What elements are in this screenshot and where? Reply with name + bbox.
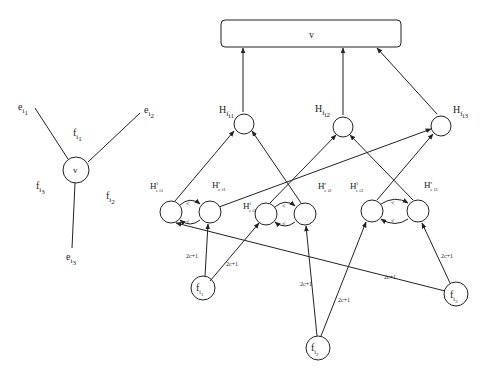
- pair1-arc-top-label: <: [186, 201, 190, 207]
- label-h-r-e-i3: Hre i3: [424, 180, 438, 192]
- arrow-fi1-to-he2l: [210, 223, 259, 281]
- pair3-arc-top-label: <: [391, 200, 395, 206]
- pair3-arc-top: [381, 199, 408, 204]
- gadget-construction: v Hfi1 Hfi2 Hfi3 < <: [150, 20, 469, 360]
- arrow-he3l-to-hf3: [377, 134, 433, 200]
- pair1-arc-bottom: [180, 220, 200, 224]
- pair2-right-node: [294, 203, 316, 225]
- pair1-arc-top: [180, 200, 200, 205]
- hub-label-f-i2: Hfi2: [315, 103, 331, 119]
- edge-line-e-i3: [72, 183, 75, 248]
- arrow-he1r-to-hf3: [219, 129, 431, 207]
- weight-label-2: 2c+1: [226, 261, 238, 267]
- hub-node-f-i1: [234, 114, 254, 134]
- face-label-f-i2: fi2: [106, 190, 115, 206]
- vertex-v-label: v: [73, 165, 78, 175]
- edge-line-e-i2: [88, 113, 140, 162]
- top-vertex-label: v: [309, 29, 314, 40]
- pair3-right-node: [407, 200, 429, 222]
- weight-label-4: 2c+1: [338, 297, 350, 303]
- label-h-r-e-i1: Hre i1: [212, 180, 226, 192]
- pair3-arc-bottom: [381, 219, 408, 224]
- hub-label-f-i1: Hfi1: [219, 104, 235, 120]
- pair2-arc-top-label: <: [282, 203, 286, 209]
- label-h-l-e-i3: Hle i3: [350, 181, 364, 193]
- pair1-right-node: [199, 201, 221, 223]
- weight-label-5: 2c+1: [384, 274, 396, 280]
- edge-label-e-i2: ei2: [144, 104, 154, 120]
- diagram-canvas: v ei1 ei2 ei3 fi1 fi2 fi3 v Hfi1 Hfi2 Hf…: [0, 0, 487, 373]
- weight-label-6: 2c+1: [441, 253, 453, 259]
- weight-label-1: 2c+1: [186, 253, 198, 259]
- pair1-left-node: [160, 201, 182, 223]
- arrow-hf3-to-box: [377, 48, 437, 114]
- face-label-f-i1: fi1: [73, 127, 82, 143]
- pair2-left-node: [255, 203, 277, 225]
- label-h-r-e-i2: Hre i2: [318, 181, 332, 193]
- label-h-l-e-i2: Hle i2: [243, 201, 257, 213]
- label-h-l-e-i1: Hle i1: [150, 181, 164, 193]
- edge-label-e-i3: ei3: [66, 251, 76, 267]
- edge-line-e-i1: [35, 108, 68, 159]
- arrow-fi1-to-he1r: [205, 224, 208, 276]
- hub-node-f-i3: [431, 116, 451, 136]
- weight-label-3: 2c+1: [300, 281, 312, 287]
- left-vertex-graph: v ei1 ei2 ei3 fi1 fi2 fi3: [18, 101, 154, 267]
- face-label-f-i3: fi3: [36, 180, 45, 196]
- hub-label-f-i3: Hfi3: [453, 104, 469, 120]
- arrow-fi2-to-he3l: [321, 222, 366, 336]
- edge-label-e-i1: ei1: [18, 101, 28, 117]
- pair3-left-node: [361, 200, 383, 222]
- hub-node-f-i2: [333, 117, 353, 137]
